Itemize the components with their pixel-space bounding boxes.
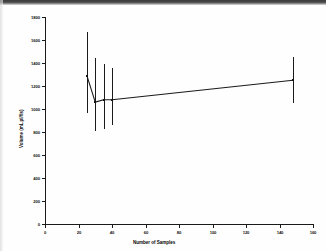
x-axis-title: Number of Samples: [133, 240, 175, 245]
data-point-marker: [94, 101, 96, 103]
plot-area: 020040060080010001200140016001800 020406…: [0, 0, 326, 251]
data-point-marker: [111, 99, 113, 101]
data-point-marker: [292, 79, 294, 81]
series-line: [0, 0, 326, 251]
chart-page: 020040060080010001200140016001800 020406…: [0, 0, 326, 251]
data-point-marker: [86, 75, 88, 77]
y-axis-title: Volume (mL pl/fis): [19, 110, 24, 149]
data-point-marker: [103, 99, 105, 101]
